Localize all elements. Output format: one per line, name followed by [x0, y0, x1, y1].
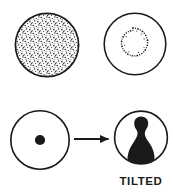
tilted-label: TILTED	[120, 175, 163, 187]
dotted-ring-circle-outline	[104, 13, 166, 75]
panel-centered-dot-circle	[11, 111, 69, 169]
panel-stippled-disc	[15, 13, 78, 76]
diagram-canvas: TILTED	[0, 0, 173, 196]
figure-diagram: TILTED	[0, 0, 173, 196]
panel-tilted-blob-circle	[115, 111, 168, 165]
panel-dotted-ring-circle	[104, 13, 166, 75]
center-dot	[35, 135, 45, 145]
